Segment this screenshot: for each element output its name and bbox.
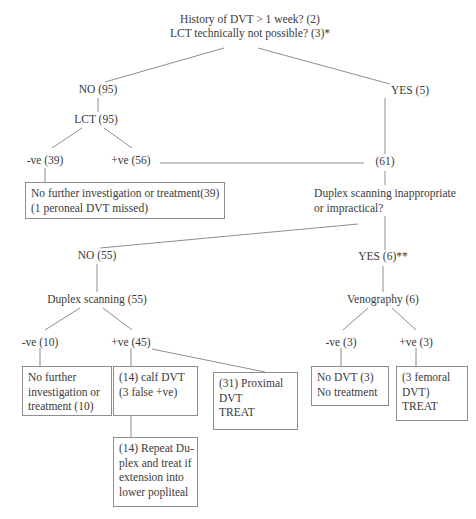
box-line: lower popliteal [119, 485, 193, 500]
node-pos-3: +ve (3) [399, 336, 433, 350]
box-line: TREAT [402, 399, 463, 414]
title-line-1: History of DVT > 1 week? (2) [170, 12, 330, 26]
box-line: (1 peroneal DVT missed) [31, 201, 220, 216]
box-proximal-dvt-31: (31) Proximal DVT TREAT [213, 372, 298, 430]
edge-duplex-to-neg10 [45, 308, 80, 330]
title-line-2: LCT technically not possible? (3)* [170, 26, 330, 40]
question-line-2: or impractical? [314, 201, 456, 216]
node-lct-95: LCT (95) [74, 113, 118, 127]
box-no-dvt-3: No DVT (3) No treatment [311, 366, 389, 406]
box-line: TREAT [219, 405, 293, 420]
node-no-95: NO (95) [79, 83, 118, 97]
box-line: DVT [219, 391, 293, 406]
edge-title-to-yes5 [258, 48, 390, 84]
dvt-management-flowchart: History of DVT > 1 week? (2) LCT technic… [0, 0, 476, 519]
box-no-further-investigation-39: No further investigation or treatment(39… [25, 182, 225, 219]
box-line: (14) Repeat Du- [119, 441, 193, 456]
box-line: DVT) [402, 385, 463, 400]
box-line: No further investigation or treatment(39… [31, 186, 220, 201]
box-line: (31) Proximal [219, 376, 293, 391]
edge-title-to-no95 [105, 48, 224, 82]
flowchart-title: History of DVT > 1 week? (2) LCT technic… [170, 12, 330, 40]
edge-duplexq-to-no55 [100, 224, 358, 248]
box-line: (3 femoral [402, 370, 463, 385]
box-line: extension into [119, 470, 193, 485]
node-venography-6: Venography (6) [347, 293, 419, 307]
question-line-1: Duplex scanning inappropriate [314, 186, 456, 201]
box-line: (3 false +ve) [119, 385, 193, 400]
node-neg-39: -ve (39) [27, 154, 64, 168]
box-line: plex and treat if [119, 456, 193, 471]
node-neg-10: -ve (10) [22, 336, 59, 350]
node-61: (61) [375, 155, 394, 169]
edge-duplex-to-pos45 [103, 308, 132, 330]
node-no-55: NO (55) [78, 249, 117, 263]
box-no-further-investigation-10: No further investigation or treatment (1… [22, 366, 112, 416]
box-line: No further [28, 370, 107, 385]
edge-lct95-to-neg39 [52, 128, 82, 148]
box-repeat-duplex-14: (14) Repeat Du- plex and treat if extens… [113, 437, 198, 507]
edge-venography-to-pos3 [392, 308, 416, 330]
node-neg-3: -ve (3) [326, 336, 357, 350]
box-line: investigation or [28, 385, 107, 400]
box-line: treatment (10) [28, 399, 107, 414]
box-calf-dvt-14: (14) calf DVT (3 false +ve) [113, 366, 198, 416]
node-pos-45: +ve (45) [111, 336, 150, 350]
question-duplex-inappropriate: Duplex scanning inappropriate or impract… [314, 186, 456, 215]
node-duplex-scanning-55: Duplex scanning (55) [47, 293, 147, 307]
box-line: No DVT (3) [317, 370, 384, 385]
node-yes-5: YES (5) [391, 84, 429, 98]
box-line: (14) calf DVT [119, 370, 193, 385]
node-pos-56: +ve (56) [111, 154, 150, 168]
edge-venography-to-neg3 [343, 308, 368, 330]
node-yes-6: YES (6)** [358, 250, 408, 264]
box-femoral-dvt-3: (3 femoral DVT) TREAT [396, 366, 468, 421]
box-line: No treatment [317, 385, 384, 400]
edge-lct95-to-pos56 [104, 128, 132, 148]
